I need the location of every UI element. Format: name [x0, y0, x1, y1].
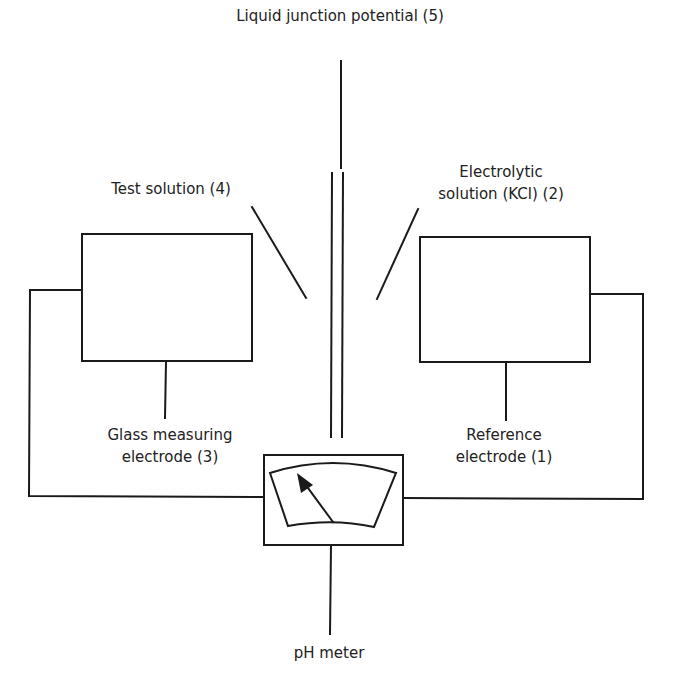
ph-meter-circuit-diagram [0, 0, 683, 685]
reference-electrode-label: Reference electrode (1) [456, 424, 553, 468]
ph-meter-leader-line [330, 546, 331, 634]
reference-electrode-box [420, 237, 590, 362]
electrolytic-solution-label: Electrolytic solution (KCl) (2) [438, 161, 564, 205]
glass-label-line-2: electrode (3) [107, 446, 232, 468]
glass-label-line-1: Glass measuring [107, 424, 232, 446]
reference-label-line-1: Reference [456, 424, 553, 446]
reference-label-line-2: electrode (1) [456, 446, 553, 468]
junction-line-right [342, 173, 343, 437]
electrolytic-label-line-2: solution (KCl) (2) [438, 183, 564, 205]
glass-electrode-label: Glass measuring electrode (3) [107, 424, 232, 468]
liquid-junction-label: Liquid junction potential (5) [236, 5, 444, 27]
glass-electrode-box [82, 234, 252, 361]
electrolytic-label-line-1: Electrolytic [438, 161, 564, 183]
meter-dial-icon [270, 463, 396, 527]
meter-needle-icon [305, 484, 333, 522]
test-solution-label: Test solution (4) [111, 178, 231, 200]
test-solution-leader-line [252, 207, 306, 298]
right-wire [403, 294, 643, 499]
junction-line-left [331, 173, 332, 437]
ph-meter-label: pH meter [294, 642, 365, 664]
electrolytic-solution-leader-line [377, 209, 418, 299]
glass-electrode-leader-line [165, 362, 166, 418]
